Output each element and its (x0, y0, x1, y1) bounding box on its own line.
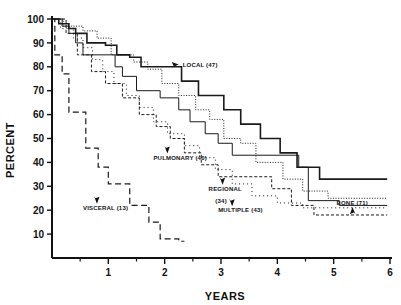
y-tick-label: 30 (33, 181, 45, 192)
x-tick-label: 4 (275, 267, 281, 278)
annotation-label: (34) (215, 198, 226, 204)
y-tick-label: 20 (33, 205, 45, 216)
y-tick-label: 10 (33, 229, 45, 240)
annotation-label: MULTIPLE (43) (218, 207, 263, 213)
annotation-label: VISCERAL (13) (83, 205, 128, 211)
x-tick-label: 5 (331, 267, 337, 278)
y-tick-label: 70 (33, 85, 45, 96)
annotation-label: LOCAL (47) (183, 62, 218, 68)
annotation-label: REGIONAL (209, 186, 242, 192)
x-tick-label: 3 (218, 267, 224, 278)
survival-chart-figure: PERCENT YEARS 102030405060708090100 1234… (0, 0, 401, 305)
y-tick-label: 100 (27, 14, 44, 25)
annotation-label: BONE (71) (336, 200, 367, 206)
x-axis-title: YEARS (205, 290, 245, 302)
y-tick-label: 90 (33, 38, 45, 49)
x-tick-label: 2 (162, 267, 168, 278)
y-tick-label: 40 (33, 157, 45, 168)
chart-canvas: PERCENT YEARS 102030405060708090100 1234… (0, 0, 401, 305)
y-axis-title: PERCENT (4, 122, 16, 178)
y-tick-label: 50 (33, 133, 45, 144)
x-tick-label: 1 (106, 267, 112, 278)
annotation-label: PULMONARY (40) (153, 155, 206, 161)
y-tick-label: 60 (33, 109, 45, 120)
y-tick-label: 80 (33, 61, 45, 72)
x-tick-label: 6 (387, 267, 393, 278)
